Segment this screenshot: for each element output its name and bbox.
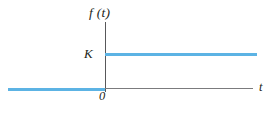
- origin-label-zero: 0: [99, 90, 105, 103]
- horizontal-axis: [105, 88, 253, 89]
- y-axis-function-label: f (t): [89, 6, 110, 20]
- vertical-axis: [105, 22, 106, 92]
- step-curve-post-step-segment: [105, 53, 257, 56]
- amplitude-tick-label-k: K: [84, 47, 93, 60]
- step-curve-pre-step-segment: [8, 88, 105, 91]
- x-axis-time-label: t: [259, 81, 262, 94]
- step-function-figure: f (t) K 0 t: [0, 0, 274, 114]
